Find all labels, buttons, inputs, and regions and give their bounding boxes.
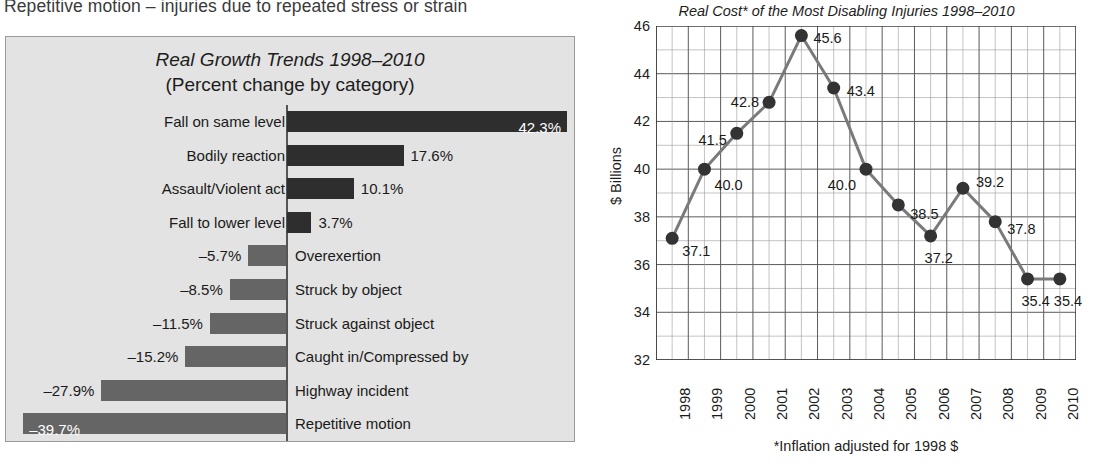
x-tick-label: 1999: [710, 388, 725, 420]
bar-value-label: 10.1%: [361, 178, 404, 199]
x-tick-label: 2008: [1001, 388, 1016, 420]
line-point-label: 45.6: [813, 31, 841, 46]
bar-rect: –39.7%: [23, 413, 286, 434]
bar-row: Fall on same level42.3%: [6, 105, 574, 139]
bar-category-label: Caught in/Compressed by: [295, 346, 468, 367]
x-tick-label: 2001: [775, 388, 790, 420]
bar-category-label: Struck against object: [295, 313, 434, 334]
bar-category-label: Repetitive motion: [295, 413, 411, 434]
x-tick-label: 1998: [678, 388, 693, 420]
line-point-label: 43.4: [847, 84, 875, 99]
bar-category-label: Bodily reaction: [187, 145, 285, 166]
y-tick-label: 42: [610, 114, 650, 128]
line-chart-plot-area: 37.140.041.542.845.643.440.038.537.239.2…: [656, 26, 1076, 360]
bar-rect: [287, 145, 404, 166]
y-tick-label: 32: [610, 353, 650, 367]
bar-row: Bodily reaction17.6%: [6, 139, 574, 173]
x-tick-label: 2007: [969, 388, 984, 420]
bar-rect: [287, 178, 354, 199]
bar-value-label: –15.2%: [128, 346, 179, 367]
bar-rect: [185, 346, 286, 367]
top-bullet-text: Repetitive motion – injuries due to repe…: [4, 0, 624, 16]
bar-row: Fall to lower level3.7%: [6, 206, 574, 240]
bar-value-label: –39.7%: [29, 419, 80, 440]
line-point-label: 40.0: [828, 178, 856, 193]
bar-row: Caught in/Compressed by–15.2%: [6, 340, 574, 374]
y-tick-label: 40: [610, 162, 650, 176]
bar-chart-subtitle: (Percent change by category): [6, 72, 574, 97]
y-tick-label: 38: [610, 210, 650, 224]
bar-category-label: Overexertion: [295, 245, 381, 266]
line-chart-x-tick-labels: 1998199920002001200220032004200520062007…: [656, 364, 1076, 424]
bar-rect: [248, 245, 286, 266]
x-tick-label: 2005: [904, 388, 919, 420]
bar-rect: 42.3%: [287, 111, 567, 132]
bar-row: Assault/Violent act10.1%: [6, 172, 574, 206]
bar-value-label: 42.3%: [518, 117, 561, 138]
bar-row: Struck against object–11.5%: [6, 307, 574, 341]
bar-rect: [230, 279, 286, 300]
x-tick-label: 2010: [1066, 388, 1081, 420]
line-point-label: 35.4: [1022, 294, 1050, 309]
bar-chart-plot-area: Fall on same level42.3%Bodily reaction17…: [6, 105, 574, 441]
x-tick-label: 2000: [743, 388, 758, 420]
bar-row: Repetitive motion–39.7%: [6, 407, 574, 441]
line-point-label: 35.4: [1054, 294, 1082, 309]
line-point-label: 38.5: [910, 207, 938, 222]
y-tick-label: 44: [610, 67, 650, 81]
line-chart-panel: Real Cost* of the Most Disabling Injurie…: [600, 0, 1093, 468]
x-tick-label: 2009: [1034, 388, 1049, 420]
bar-value-label: 3.7%: [318, 212, 352, 233]
line-point-label: 37.2: [925, 251, 953, 266]
bar-value-label: –11.5%: [153, 313, 203, 334]
bar-category-label: Fall on same level: [164, 111, 285, 132]
bar-rect: [210, 313, 286, 334]
line-point-label: 41.5: [699, 133, 727, 148]
y-tick-label: 34: [610, 305, 650, 319]
line-point-label: 40.0: [714, 178, 742, 193]
bar-chart-title: Real Growth Trends 1998–2010: [6, 47, 574, 72]
bar-value-label: –8.5%: [180, 279, 223, 300]
bar-chart-panel: Real Growth Trends 1998–2010 (Percent ch…: [5, 36, 575, 442]
bar-value-label: –27.9%: [43, 380, 94, 401]
bar-category-label: Highway incident: [295, 380, 408, 401]
bar-category-label: Fall to lower level: [169, 212, 285, 233]
bar-row: Struck by object–8.5%: [6, 273, 574, 307]
x-tick-label: 2002: [807, 388, 822, 420]
x-tick-label: 2004: [872, 388, 887, 420]
line-point-label: 42.8: [731, 95, 759, 110]
line-point-label: 37.1: [682, 244, 710, 259]
bar-rect: [287, 212, 311, 233]
y-tick-label: 36: [610, 258, 650, 272]
bar-category-label: Assault/Violent act: [162, 178, 285, 199]
bar-row: Highway incident–27.9%: [6, 374, 574, 408]
bar-rect: [101, 380, 286, 401]
line-chart-title: Real Cost* of the Most Disabling Injurie…: [600, 2, 1093, 20]
bar-category-label: Struck by object: [295, 279, 402, 300]
line-chart-y-tick-labels: 4644424038363432: [606, 26, 650, 360]
bar-value-label: 17.6%: [411, 145, 454, 166]
y-tick-label: 46: [610, 19, 650, 33]
line-chart-footnote: *Inflation adjusted for 1998 $: [656, 438, 1076, 454]
x-tick-label: 2003: [840, 388, 855, 420]
bar-value-label: –5.7%: [199, 245, 242, 266]
line-point-label: 39.2: [976, 175, 1004, 190]
x-tick-label: 2006: [937, 388, 952, 420]
line-point-label: 37.8: [1007, 222, 1035, 237]
bar-row: Overexertion–5.7%: [6, 239, 574, 273]
